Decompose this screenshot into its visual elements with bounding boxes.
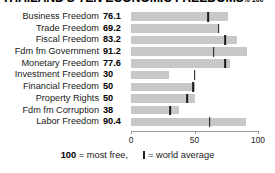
row-value-label: 50 [103,81,113,93]
row-category-label: Monetary Freedom [21,58,99,70]
row-value-label: 50 [103,93,113,105]
row-value-label: 91.2 [103,46,121,58]
world-average-marker-icon [213,47,215,57]
chart-row: Property Rights50 [0,93,275,105]
row-value-label: 38 [103,105,113,117]
bar-track [131,59,258,68]
chart-row: Fiscal Freedom83.2 [0,34,275,46]
axis-tick-label: 100 [251,135,265,145]
axis-tick [131,131,132,134]
row-category-label: Business Freedom [22,11,99,23]
bar-track [131,83,258,92]
axis-tick-label: 50 [190,135,199,145]
legend-average-text: = world average [148,150,214,160]
row-category-label: Investment Freedom [15,69,99,81]
row-category-label: Property Rights [36,93,99,105]
row-category-label: Financial Freedom [23,81,99,93]
bar-track [131,12,258,21]
chart-row: Financial Freedom50 [0,81,275,93]
bar-track [131,71,258,80]
world-average-marker-icon [218,24,220,34]
row-value-label: 76.1 [103,11,121,23]
bar-track [131,36,258,45]
row-value-label: 69.2 [103,23,121,35]
chart-title-clipped: THAILAND'S TEN ECONOMIC FREEDOMS% 100 [0,0,275,8]
bar-track [131,94,258,103]
world-average-marker-icon [224,59,226,69]
chart-legend: 100 = most free, = world average [0,150,275,160]
row-category-label: Fdm fm Corruption [22,105,99,117]
page-title-suffix: % 100 [244,0,264,3]
row-value-label: 77.6 [103,58,121,70]
bar-fill [131,12,228,21]
axis-tick [258,131,259,134]
chart-row: Trade Freedom69.2 [0,23,275,35]
chart-row: Business Freedom76.1 [0,11,275,23]
row-category-label: Fiscal Freedom [36,34,99,46]
bar-track [131,106,258,115]
world-average-marker-icon [208,12,210,22]
bar-fill [131,36,237,45]
chart-row: Investment Freedom30 [0,69,275,81]
bar-track [131,118,258,127]
chart-row: Fdm fm Government91.2 [0,46,275,58]
axis-tick [195,131,196,134]
world-average-marker-icon [224,35,226,45]
bar-fill [131,71,169,80]
row-value-label: 90.4 [103,116,121,128]
page-title: THAILAND'S TEN ECONOMIC FREEDOMS% 100 [2,0,263,5]
bar-fill [131,106,179,115]
legend-scale-text: = most free, [79,150,128,160]
bar-fill [131,94,195,103]
chart-row: Monetary Freedom77.6 [0,58,275,70]
x-axis: 050100 [131,131,258,132]
row-category-label: Fdm fm Government [15,46,99,58]
axis-tick-label: 0 [129,135,134,145]
bar-track [131,24,258,33]
world-average-marker-icon [192,82,194,92]
page-title-text: THAILAND'S TEN ECONOMIC FREEDOMS [2,0,244,5]
row-value-label: 30 [103,69,113,81]
bar-fill [131,24,219,33]
chart-row: Fdm fm Corruption38 [0,105,275,117]
row-value-label: 83.2 [103,34,121,46]
world-average-marker-icon [170,106,172,116]
vertical-bar-icon [143,151,145,160]
legend-scale-number: 100 [61,150,77,160]
world-average-marker-icon [209,117,211,127]
world-average-marker-icon [194,70,196,80]
economic-freedoms-chart: THAILAND'S TEN ECONOMIC FREEDOMS% 100 Bu… [0,0,275,173]
row-category-label: Trade Freedom [36,23,99,35]
row-category-label: Labor Freedom [36,116,99,128]
chart-rows: Business Freedom76.1Trade Freedom69.2Fis… [0,11,275,128]
world-average-marker-icon [186,94,188,104]
bar-track [131,47,258,56]
chart-row: Labor Freedom90.4 [0,116,275,128]
bar-fill [131,83,195,92]
bar-fill [131,59,230,68]
bar-fill [131,47,247,56]
bar-fill [131,118,246,127]
